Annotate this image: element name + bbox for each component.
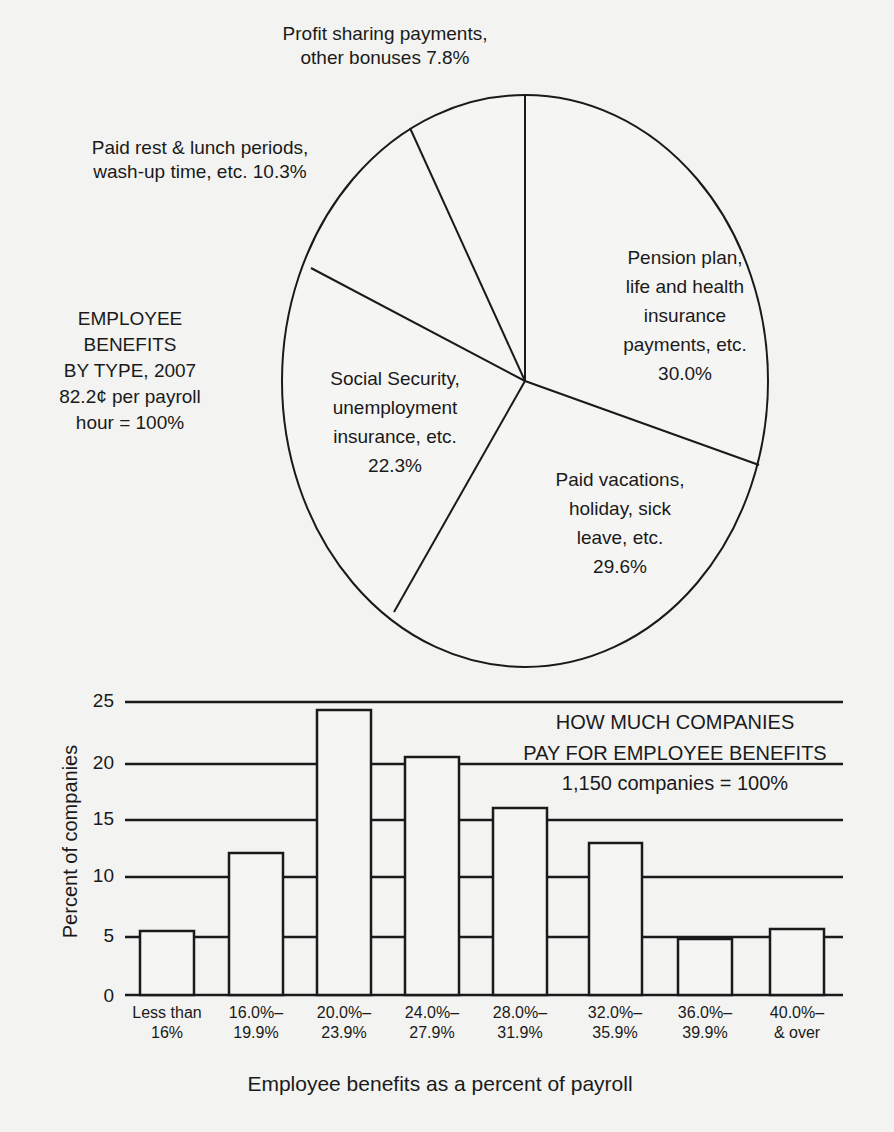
y-tick-0: 0: [84, 985, 114, 1007]
bar-28-31.9: [493, 808, 547, 995]
bar-less-than-16: [140, 931, 194, 995]
pie-label-social-security: Social Security, unemployment insurance,…: [305, 364, 485, 480]
pie-label-profit-sharing: Profit sharing payments, other bonuses 7…: [255, 22, 515, 70]
pie-label-paid-rest: Paid rest & lunch periods, wash-up time,…: [55, 136, 345, 184]
bar-chart-title: HOW MUCH COMPANIES PAY FOR EMPLOYEE BENE…: [480, 707, 870, 769]
x-cat-32-35.9: 32.0%– 35.9%: [570, 1003, 660, 1043]
bar-16-19.9: [229, 853, 283, 995]
y-tick-20: 20: [84, 752, 114, 774]
x-cat-20-23.9: 20.0%– 23.9%: [299, 1003, 389, 1043]
bar-20-23.9: [317, 710, 371, 995]
x-cat-less-than-16: Less than 16%: [122, 1003, 212, 1043]
x-cat-24-27.9: 24.0%– 27.9%: [387, 1003, 477, 1043]
bar-24-27.9: [405, 757, 459, 995]
bar-chart-subtitle: 1,150 companies = 100%: [530, 771, 820, 795]
bar-32-35.9: [589, 843, 642, 995]
y-tick-25: 25: [84, 690, 114, 712]
pie-label-pension: Pension plan, life and health insurance …: [595, 243, 775, 388]
x-cat-40-over: 40.0%– & over: [752, 1003, 842, 1043]
y-tick-5: 5: [84, 925, 114, 947]
pie-label-paid-vacations: Paid vacations, holiday, sick leave, etc…: [530, 465, 710, 581]
pie-title: EMPLOYEE BENEFITS BY TYPE, 2007 82.2¢ pe…: [30, 306, 230, 436]
y-tick-10: 10: [84, 865, 114, 887]
bar-40-over: [770, 929, 824, 995]
y-axis-label: Percent of companies: [59, 742, 82, 942]
x-cat-16-19.9: 16.0%– 19.9%: [211, 1003, 301, 1043]
x-cat-36-39.9: 36.0%– 39.9%: [660, 1003, 750, 1043]
x-cat-28-31.9: 28.0%– 31.9%: [475, 1003, 565, 1043]
y-tick-15: 15: [84, 808, 114, 830]
bar-36-39.9: [678, 939, 732, 995]
x-axis-label: Employee benefits as a percent of payrol…: [200, 1072, 680, 1096]
